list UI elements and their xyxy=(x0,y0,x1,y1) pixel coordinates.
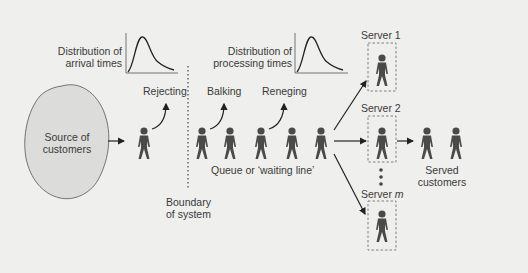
server-m-suffix: m xyxy=(395,188,404,200)
server-m-text: Server xyxy=(361,188,395,200)
arrival-line1: Distribution of xyxy=(40,45,122,57)
processing-distribution-chart xyxy=(295,33,348,73)
boundary-label: Boundary of system xyxy=(166,196,211,220)
served-label: Served customers xyxy=(412,164,472,188)
source-line2: customers xyxy=(32,143,102,155)
boundary-line1: Boundary xyxy=(166,196,211,208)
queue-label: Queue or ‘waiting line’ xyxy=(211,164,314,176)
arrival-dist-label: Distribution of arrival times xyxy=(40,45,122,69)
reneging-label: Reneging xyxy=(262,85,307,97)
processing-line2: processing times xyxy=(200,57,292,69)
boundary-line2: of system xyxy=(166,208,211,220)
server-1-label: Server 1 xyxy=(361,29,401,41)
processing-line1: Distribution of xyxy=(200,45,292,57)
rejecting-label: Rejecting xyxy=(143,85,187,97)
arrival-distribution-chart xyxy=(126,33,178,73)
served-line1: Served xyxy=(412,164,472,176)
source-line1: Source of xyxy=(32,131,102,143)
arrival-line2: arrival times xyxy=(40,57,122,69)
server-2-label: Server 2 xyxy=(361,102,401,114)
server-m-label: Server m xyxy=(361,188,404,200)
processing-dist-label: Distribution of processing times xyxy=(200,45,292,69)
balking-label: Balking xyxy=(207,85,241,97)
source-label: Source of customers xyxy=(32,131,102,155)
served-line2: customers xyxy=(412,176,472,188)
